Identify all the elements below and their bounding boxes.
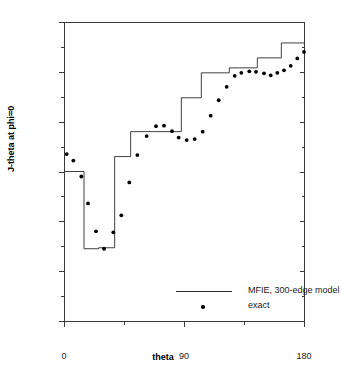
- legend: MFIE, 300-edge model exact: [176, 284, 336, 314]
- data-point: [79, 175, 83, 179]
- data-point: [193, 137, 197, 141]
- data-point: [127, 181, 131, 185]
- data-point: [111, 230, 115, 234]
- legend-entry-exact: exact: [176, 299, 336, 314]
- data-point: [302, 50, 306, 54]
- data-layer: [64, 22, 305, 322]
- legend-label-exact: exact: [248, 300, 270, 310]
- legend-entry-mfie: MFIE, 300-edge model: [176, 284, 336, 299]
- data-point: [145, 134, 149, 138]
- data-point: [94, 229, 98, 233]
- data-point: [262, 71, 266, 75]
- x-tick-minor: [124, 322, 125, 325]
- data-point: [170, 129, 174, 133]
- data-point: [71, 159, 75, 163]
- x-tick-major: [64, 322, 65, 327]
- legend-line-swatch: [176, 284, 232, 299]
- legend-label-mfie: MFIE, 300-edge model: [248, 285, 340, 295]
- data-point: [185, 138, 189, 142]
- data-point: [289, 64, 293, 68]
- x-tick-major: [184, 322, 185, 327]
- x-tick-major: [304, 322, 305, 327]
- data-point: [239, 71, 243, 75]
- series-mfie-step-line: [64, 43, 304, 249]
- data-point: [295, 56, 299, 60]
- data-point: [217, 98, 221, 102]
- series-exact-points: [65, 50, 306, 251]
- data-point: [254, 70, 258, 74]
- data-point: [65, 152, 69, 156]
- legend-dot-swatch: [176, 299, 232, 314]
- data-point: [201, 130, 205, 134]
- x-axis-title: theta: [0, 352, 326, 362]
- data-point: [119, 213, 123, 217]
- data-point: [233, 74, 237, 78]
- data-point: [209, 114, 213, 118]
- data-point: [177, 136, 181, 140]
- data-point: [269, 73, 273, 77]
- data-point: [135, 153, 139, 157]
- data-point: [102, 247, 106, 251]
- plot-area: 0.0000.0010.0020.0030.0040.0050.00609018…: [64, 22, 305, 322]
- data-point: [275, 71, 279, 75]
- x-tick-minor: [244, 322, 245, 325]
- data-point: [154, 124, 158, 128]
- data-point: [162, 124, 166, 128]
- data-point: [86, 201, 90, 205]
- data-point: [282, 68, 286, 72]
- data-point: [225, 85, 229, 89]
- y-axis-title: J-theta at phi=0: [6, 106, 16, 172]
- data-point: [247, 69, 251, 73]
